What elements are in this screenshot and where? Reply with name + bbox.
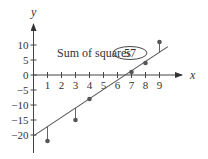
scatter-plot-with-regression: 1234567891050−5−10−15−20 Sum of squares …: [0, 0, 208, 159]
x-axis-label: x: [189, 68, 196, 82]
y-tick-label: 0: [23, 69, 29, 81]
x-tick-label: 4: [87, 79, 93, 91]
x-tick-label: 9: [157, 79, 163, 91]
y-tick-label: −5: [17, 84, 29, 96]
x-tick-label: 3: [73, 79, 79, 91]
x-tick-label: 1: [45, 79, 51, 91]
fit-line: [34, 47, 168, 136]
regression-line: [34, 47, 168, 136]
data-point: [157, 40, 162, 45]
data-point: [143, 61, 148, 66]
y-tick-label: 5: [23, 54, 29, 66]
sum-of-squares-annotation: Sum of squares 57: [57, 46, 147, 60]
data-point: [45, 139, 50, 144]
x-tick-label: 7: [129, 79, 135, 91]
y-tick-label: 10: [18, 39, 30, 51]
data-point: [73, 118, 78, 123]
x-tick-label: 8: [143, 79, 149, 91]
y-tick-label: −10: [11, 99, 29, 111]
annotation-value: 57: [124, 46, 136, 60]
y-axis-label: y: [30, 5, 37, 19]
data-point: [129, 70, 134, 75]
data-point: [87, 97, 92, 102]
y-tick-label: −15: [11, 114, 29, 126]
y-tick-label: −20: [11, 129, 29, 141]
x-tick-label: 2: [59, 79, 65, 91]
